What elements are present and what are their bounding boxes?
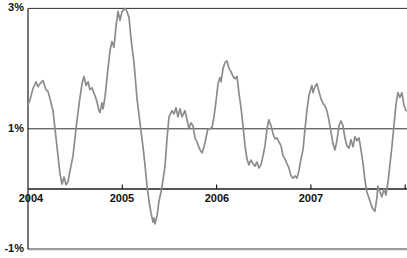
x-axis-label-2007: 2007 bbox=[291, 192, 331, 205]
y-axis-label-1pct: 1% bbox=[0, 122, 24, 135]
chart-canvas bbox=[0, 0, 407, 258]
line-chart: 3% 1% -1% 2004 2005 2006 2007 bbox=[0, 0, 407, 258]
y-axis-label-minus1pct: -1% bbox=[0, 242, 24, 255]
x-axis-label-2005: 2005 bbox=[102, 192, 142, 205]
x-axis-label-2004: 2004 bbox=[11, 192, 51, 205]
y-axis-label-3pct: 3% bbox=[0, 1, 24, 14]
x-axis-label-2006: 2006 bbox=[197, 192, 237, 205]
